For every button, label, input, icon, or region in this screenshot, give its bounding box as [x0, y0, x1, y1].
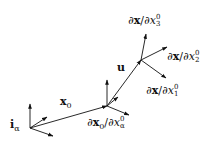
label-u: u	[117, 62, 125, 73]
label-x0: x0	[60, 96, 72, 110]
frame0-axis-right	[107, 106, 129, 115]
frame-axis-3	[141, 34, 146, 60]
label-i-alpha: iα	[10, 119, 20, 133]
origin-axis-diag	[30, 117, 47, 128]
frame-axis-1	[141, 60, 166, 78]
origin-axis-right	[30, 128, 53, 136]
label-dx-dx3: ∂x/∂x03	[128, 14, 160, 28]
label-dx-dx1: ∂x/∂x01	[146, 84, 178, 98]
label-dx0-dxalpha0: ∂x0/∂x0α	[87, 116, 125, 131]
frame-axis-2	[141, 47, 167, 60]
label-dx-dx2: ∂x/∂x02	[167, 50, 199, 64]
